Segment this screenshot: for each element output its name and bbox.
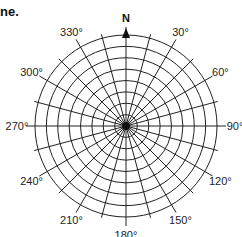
angle-label: 120°	[209, 175, 232, 187]
radial-line	[126, 126, 151, 218]
radial-line	[59, 59, 126, 126]
angle-label: 180°	[115, 229, 138, 237]
angle-label: 270°	[6, 120, 29, 132]
north-arrow-icon	[122, 28, 130, 38]
radial-line	[101, 126, 126, 218]
radial-line	[126, 126, 176, 213]
radial-line	[126, 126, 218, 151]
radial-line	[126, 34, 151, 126]
angle-label: 60°	[212, 66, 229, 78]
radial-line	[76, 126, 126, 213]
angle-label: 210°	[60, 214, 83, 226]
radial-line	[126, 101, 218, 126]
radial-line	[126, 39, 176, 126]
polar-grid	[26, 27, 226, 226]
angle-label: 150°	[169, 214, 192, 226]
angle-label: 90°	[227, 120, 242, 132]
radial-line	[34, 101, 126, 126]
angle-label: 30°	[172, 26, 189, 38]
radial-line	[101, 34, 126, 126]
radial-line	[76, 39, 126, 126]
radial-line	[126, 59, 193, 126]
radial-line	[34, 126, 126, 151]
polar-grid-diagram: 30°60°90°120°150°180°210°240°270°300°330…	[0, 0, 242, 237]
radial-line	[126, 126, 213, 176]
north-label: N	[122, 12, 130, 24]
radial-line	[59, 126, 126, 193]
angle-label: 300°	[20, 66, 43, 78]
radial-line	[39, 76, 126, 126]
radial-line	[126, 76, 213, 126]
angle-label: 240°	[20, 175, 43, 187]
radial-line	[39, 126, 126, 176]
radial-line	[126, 126, 193, 193]
angle-label: 330°	[60, 26, 83, 38]
